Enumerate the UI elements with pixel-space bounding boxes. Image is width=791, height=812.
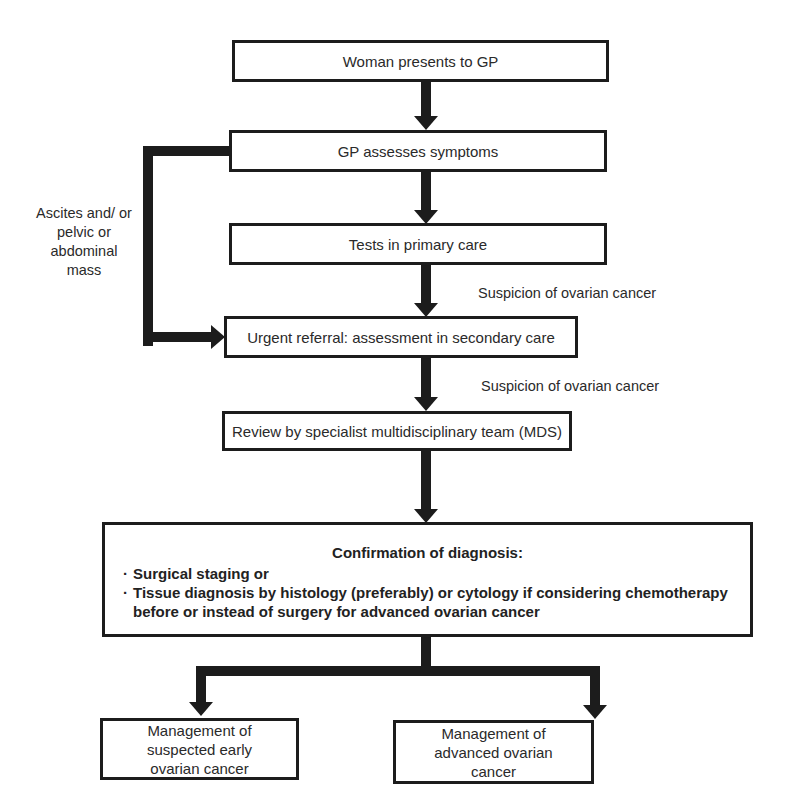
node-label: Management of advanced ovarian cancer <box>396 724 591 781</box>
arrow-down-icon <box>414 116 438 130</box>
node-label: GP assesses symptoms <box>338 142 499 161</box>
split-connector-left <box>196 666 206 704</box>
node-early-management: Management of suspected early ovarian ca… <box>100 718 299 780</box>
node-urgent-referral: Urgent referral: assessment in secondary… <box>224 316 578 358</box>
node-tests-primary-care: Tests in primary care <box>229 223 607 265</box>
bypass-connector-vertical <box>143 146 153 346</box>
bypass-connector-bottom <box>143 332 213 342</box>
bypass-connector-top <box>143 146 230 156</box>
node-woman-presents: Woman presents to GP <box>232 40 609 82</box>
arrow-shaft <box>421 172 431 212</box>
confirmation-bullet: Surgical staging or <box>123 564 750 583</box>
arrow-down-icon <box>414 397 438 411</box>
node-gp-assesses: GP assesses symptoms <box>229 130 607 172</box>
node-advanced-management: Management of advanced ovarian cancer <box>393 720 594 784</box>
node-label: Tests in primary care <box>349 235 487 254</box>
edge-label-suspicion-2: Suspicion of ovarian cancer <box>481 377 659 396</box>
arrow-shaft <box>421 358 431 398</box>
node-label: Review by specialist multidisciplinary t… <box>232 422 562 441</box>
confirmation-title: Confirmation of diagnosis: <box>105 543 750 562</box>
node-label: Woman presents to GP <box>343 52 499 71</box>
confirmation-bullets: Surgical staging or Tissue diagnosis by … <box>105 564 750 621</box>
node-mds-review: Review by specialist multidisciplinary t… <box>222 411 572 451</box>
arrow-down-icon <box>414 509 438 523</box>
arrow-down-icon <box>189 702 213 716</box>
node-label: Management of suspected early ovarian ca… <box>103 721 296 778</box>
arrow-right-icon <box>211 325 225 349</box>
arrow-shaft <box>421 451 431 511</box>
split-connector-horizontal <box>196 666 600 676</box>
confirmation-bullet: Tissue diagnosis by histology (preferabl… <box>123 583 750 621</box>
edge-label-ascites: Ascites and/ or pelvic or abdominal mass <box>36 204 132 280</box>
node-label: Urgent referral: assessment in secondary… <box>247 328 555 347</box>
arrow-shaft <box>421 82 431 118</box>
arrow-down-icon <box>583 705 607 719</box>
arrow-down-icon <box>414 303 438 317</box>
arrow-down-icon <box>414 210 438 224</box>
split-connector-right <box>590 666 600 706</box>
arrow-shaft <box>421 265 431 305</box>
node-confirmation-of-diagnosis: Confirmation of diagnosis: Surgical stag… <box>102 522 753 637</box>
edge-label-suspicion-1: Suspicion of ovarian cancer <box>478 284 656 303</box>
